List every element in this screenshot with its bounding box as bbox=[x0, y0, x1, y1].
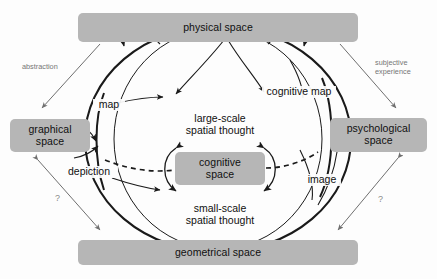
label-question-left: ? bbox=[55, 193, 60, 203]
label-question-right: ? bbox=[378, 194, 383, 204]
node-geometrical-space[interactable]: geometrical space bbox=[78, 240, 358, 265]
diagram-canvas: physical space graphical space psycholog… bbox=[0, 0, 437, 279]
node-cognitive-space[interactable]: cognitive space bbox=[175, 152, 265, 185]
node-psychological-space[interactable]: psychological space bbox=[330, 118, 427, 152]
label-abstraction: abstraction bbox=[22, 63, 92, 72]
node-graphical-space[interactable]: graphical space bbox=[10, 119, 90, 152]
node-physical-space-label: physical space bbox=[183, 22, 253, 34]
physical-to-interior-arrows bbox=[176, 40, 264, 94]
label-small-scale-spatial-thought: small-scale spatial thought bbox=[170, 202, 270, 226]
node-graphical-space-label: graphical space bbox=[28, 124, 71, 148]
abstraction-arrow bbox=[42, 44, 100, 108]
node-geometrical-space-label: geometrical space bbox=[175, 247, 261, 259]
node-cognitive-space-label: cognitive space bbox=[199, 157, 241, 181]
label-map: map bbox=[93, 99, 125, 111]
label-subjective-experience: subjective experience bbox=[375, 59, 437, 76]
depiction-arrow bbox=[112, 178, 160, 190]
label-cognitive-map: cognitive map bbox=[262, 86, 336, 98]
label-large-scale-spatial-thought: large-scale spatial thought bbox=[170, 112, 270, 136]
node-physical-space[interactable]: physical space bbox=[78, 13, 358, 42]
label-depiction: depiction bbox=[60, 166, 118, 178]
node-psychological-space-label: psychological space bbox=[347, 123, 411, 147]
label-image: image bbox=[303, 174, 341, 186]
